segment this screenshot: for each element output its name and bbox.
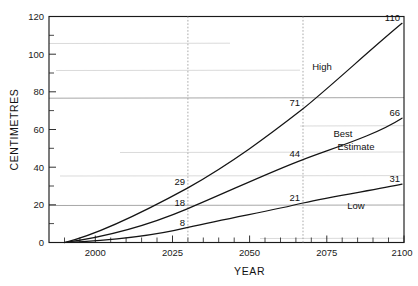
y-tick-label-0: 0 [39,237,44,248]
y-tick-label-60: 60 [33,124,44,135]
value-label-high-2030: 29 [174,176,185,187]
value-label-best-2100: 66 [389,107,400,118]
value-label-low-2100: 31 [389,173,400,184]
value-label-best-2030: 18 [174,197,185,208]
x-tick-label-2050: 2050 [239,247,260,258]
value-label-low-2030: 8 [180,217,185,228]
y-tick-label-120: 120 [28,11,44,22]
value-label-best-2070: 44 [289,148,300,159]
series-label-best-estimate-line1: Best [333,128,352,139]
y-axis-title: CENTIMETRES [8,89,20,171]
value-label-high-2070: 71 [289,97,300,108]
y-tick-label-40: 40 [33,162,44,173]
series-label-best-estimate-line2: Estimate [338,141,375,152]
value-label-high-2100: 110 [385,12,400,23]
x-tick-label-2025: 2025 [162,247,183,258]
chart-svg: 0 20 40 60 80 100 120 [0,0,418,286]
x-axis-title: YEAR [234,265,265,277]
y-tick-label-100: 100 [28,49,44,60]
x-tick-label-2075: 2075 [316,247,337,258]
series-label-low: Low [347,200,365,211]
y-tick-label-20: 20 [33,199,44,210]
x-tick-label-2000: 2000 [85,247,106,258]
y-tick-label-80: 80 [33,86,44,97]
series-label-high: High [312,61,332,72]
sea-level-rise-chart: 0 20 40 60 80 100 120 [0,0,418,286]
value-label-low-2070: 21 [289,192,300,203]
x-tick-label-2100: 2100 [391,247,412,258]
